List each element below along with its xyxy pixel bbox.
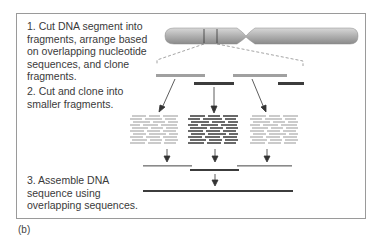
fragment-dark <box>194 82 234 85</box>
large-fragments <box>156 74 304 85</box>
zoom-lines <box>157 44 303 66</box>
fragment-cluster-middle <box>188 116 238 143</box>
fragment-dark <box>278 82 304 85</box>
chromosome-icon <box>165 28 358 44</box>
arrow-head-icon <box>164 156 170 162</box>
shotgun-sequencing-diagram <box>0 0 385 239</box>
figure-caption: (b) <box>18 224 30 235</box>
assembled-sequence <box>143 190 293 192</box>
fragment-light <box>233 74 287 77</box>
arrow-head-icon <box>264 156 270 162</box>
arrow-head-icon <box>261 105 266 112</box>
fragment-light <box>156 74 205 77</box>
overlapping-fragments <box>143 165 292 171</box>
fragment-cluster-right <box>250 116 298 143</box>
arrow-head-icon <box>159 105 165 112</box>
assembly-arrows <box>164 149 270 162</box>
arrow-head-icon <box>212 180 218 186</box>
fragment-cluster-left <box>130 116 178 143</box>
final-arrow <box>212 174 218 186</box>
arrow-head-icon <box>212 156 218 162</box>
arrow-head-icon <box>211 106 217 113</box>
